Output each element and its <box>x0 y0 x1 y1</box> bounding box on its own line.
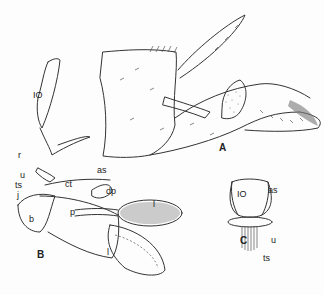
panel-c-label: C <box>240 236 247 246</box>
label-b-p: p <box>70 208 75 217</box>
label-b-ts: ts <box>15 181 22 190</box>
label-b-j: j <box>17 191 19 200</box>
figure-a-drawing <box>100 15 320 157</box>
label-c-io: IO <box>237 190 247 199</box>
label-c-u: u <box>271 236 276 245</box>
label-b-u: u <box>20 171 25 180</box>
label-b-b: b <box>29 215 34 224</box>
label-b-dp: dp <box>106 187 116 196</box>
figure-c-drawing <box>228 179 272 251</box>
label-b-l-lower: l <box>107 248 109 257</box>
label-b-ct: ct <box>65 180 72 189</box>
entomology-figure: A B C IO r as u ts ct j dp b p l l IO as… <box>0 0 324 295</box>
panel-b-label: B <box>37 250 44 260</box>
label-b-io: IO <box>33 91 43 100</box>
label-c-ts: ts <box>263 254 270 263</box>
line-drawing <box>0 0 324 295</box>
label-c-as: as <box>268 186 278 195</box>
label-b-l-upper: l <box>153 200 155 209</box>
panel-a-label: A <box>219 143 226 153</box>
label-b-as: as <box>97 166 107 175</box>
label-b-r: r <box>18 151 21 160</box>
